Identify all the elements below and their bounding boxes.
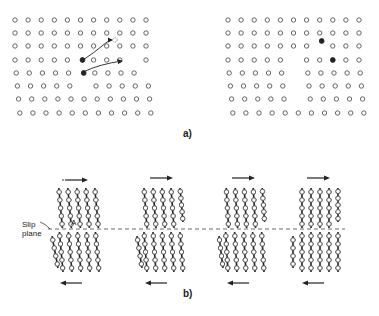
marker-a-label: A xyxy=(71,218,76,227)
open-atom xyxy=(78,266,82,270)
open-atom xyxy=(233,190,237,194)
open-atom xyxy=(121,97,125,101)
open-atom xyxy=(336,258,340,262)
slip-diagram xyxy=(0,0,379,316)
open-atom xyxy=(252,18,256,22)
open-atom xyxy=(362,111,366,115)
open-atom xyxy=(291,31,295,35)
open-atom xyxy=(105,31,109,35)
open-atom xyxy=(66,190,70,194)
open-atom xyxy=(161,242,165,246)
open-atom xyxy=(300,266,304,270)
open-atom xyxy=(300,198,304,202)
open-atom xyxy=(96,222,100,226)
open-atom xyxy=(161,250,165,254)
open-atom xyxy=(55,262,59,266)
open-atom xyxy=(300,258,304,262)
open-atom xyxy=(144,44,148,48)
open-atom xyxy=(346,84,350,88)
open-atom xyxy=(85,206,89,210)
open-atom xyxy=(108,97,112,101)
open-atom xyxy=(131,31,135,35)
open-atom xyxy=(226,58,230,62)
open-atom xyxy=(94,84,98,88)
part-a-label: a) xyxy=(183,128,192,139)
open-atom xyxy=(262,266,266,270)
open-atom xyxy=(180,258,184,262)
open-atom xyxy=(69,266,73,270)
open-atom xyxy=(279,71,283,75)
open-atom xyxy=(291,254,295,258)
open-atom xyxy=(327,250,331,254)
open-atom xyxy=(151,190,155,194)
open-atom xyxy=(318,242,322,246)
open-atom xyxy=(118,44,122,48)
open-atom xyxy=(109,111,113,115)
open-atom xyxy=(152,206,156,210)
open-atom xyxy=(239,58,243,62)
open-atom xyxy=(240,71,244,75)
open-atom xyxy=(78,222,82,226)
open-atom xyxy=(253,222,257,226)
open-atom xyxy=(304,44,308,48)
open-atom xyxy=(327,214,331,218)
open-atom xyxy=(254,84,258,88)
open-atom xyxy=(28,84,32,88)
open-atom xyxy=(162,258,166,262)
open-atom xyxy=(163,222,167,226)
open-atom xyxy=(357,58,361,62)
open-atom xyxy=(336,189,340,193)
open-atom xyxy=(344,58,348,62)
open-atom xyxy=(344,44,348,48)
open-atom xyxy=(227,71,231,75)
open-atom xyxy=(300,206,304,210)
open-atom xyxy=(179,242,183,246)
open-atom xyxy=(243,206,247,210)
open-atom xyxy=(321,97,325,101)
open-atom xyxy=(334,97,338,101)
open-atom xyxy=(327,234,331,238)
open-atom xyxy=(142,234,146,238)
slip-plane-label-line2: plane xyxy=(22,229,42,238)
open-atom xyxy=(52,58,56,62)
open-atom xyxy=(179,203,183,207)
open-atom xyxy=(296,111,300,115)
open-atom xyxy=(278,58,282,62)
open-atom xyxy=(252,44,256,48)
open-atom xyxy=(13,31,17,35)
open-atom xyxy=(44,111,48,115)
part-b-label: b) xyxy=(183,288,192,299)
open-atom xyxy=(300,242,304,246)
open-atom xyxy=(152,198,156,202)
open-atom xyxy=(269,97,273,101)
open-atom xyxy=(60,258,64,262)
open-atom xyxy=(85,234,89,238)
open-atom xyxy=(318,222,322,226)
open-atom xyxy=(14,71,18,75)
open-atom xyxy=(300,222,304,226)
open-atom xyxy=(144,31,148,35)
open-atom xyxy=(43,97,47,101)
open-atom xyxy=(225,258,229,262)
open-atom xyxy=(304,18,308,22)
open-atom xyxy=(144,214,148,218)
open-atom xyxy=(265,44,269,48)
open-atom xyxy=(57,111,61,115)
open-atom xyxy=(135,238,139,242)
open-atom xyxy=(327,266,331,270)
open-atom xyxy=(65,58,69,62)
open-atom xyxy=(93,190,97,194)
open-atom xyxy=(309,258,313,262)
open-atom xyxy=(131,44,135,48)
open-atom xyxy=(331,31,335,35)
open-atom xyxy=(261,196,265,200)
open-atom xyxy=(58,206,62,210)
open-atom xyxy=(243,258,247,262)
open-atom xyxy=(96,266,100,270)
open-atom xyxy=(244,222,248,226)
open-atom xyxy=(262,216,266,220)
open-atom xyxy=(318,214,322,218)
open-atom xyxy=(309,266,313,270)
open-atom xyxy=(291,18,295,22)
open-atom xyxy=(239,18,243,22)
